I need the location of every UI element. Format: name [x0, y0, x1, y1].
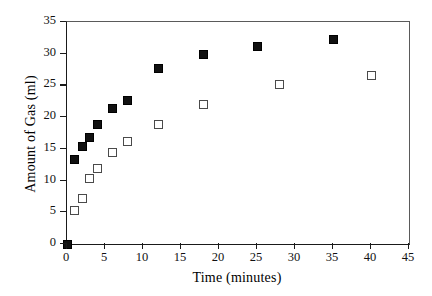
y-tick [60, 211, 66, 212]
x-tick [180, 243, 181, 249]
data-point-filled-squares [253, 42, 262, 51]
x-tick-label: 10 [127, 251, 157, 264]
data-point-filled-squares [93, 120, 102, 129]
data-point-open-squares [367, 71, 376, 80]
plot-area [66, 21, 410, 245]
data-point-open-squares [85, 174, 94, 183]
data-point-open-squares [108, 148, 117, 157]
data-point-filled-squares [154, 64, 163, 73]
x-tick-label: 20 [203, 251, 233, 264]
data-point-open-squares [199, 100, 208, 109]
y-tick [60, 180, 66, 181]
x-tick [256, 243, 257, 249]
x-tick [66, 243, 67, 249]
y-axis-title: Amount of Gas (ml) [23, 14, 39, 254]
data-point-filled-squares [123, 96, 132, 105]
gas-evolution-scatter-chart: 051015202530354045 05101520253035 Time (… [0, 0, 432, 296]
y-tick [60, 148, 66, 149]
data-point-filled-squares [70, 155, 79, 164]
x-tick [332, 243, 333, 249]
x-tick-label: 45 [393, 251, 423, 264]
x-tick-label: 15 [165, 251, 195, 264]
data-point-open-squares [93, 164, 102, 173]
data-point-open-squares [275, 80, 284, 89]
x-tick-label: 0 [51, 251, 81, 264]
data-point-open-squares [154, 120, 163, 129]
x-tick-label: 30 [279, 251, 309, 264]
x-axis-title: Time (minutes) [66, 270, 408, 286]
x-tick [142, 243, 143, 249]
data-point-filled-squares [85, 133, 94, 142]
x-tick [104, 243, 105, 249]
data-point-filled-squares [199, 50, 208, 59]
y-tick [60, 243, 66, 244]
x-tick [370, 243, 371, 249]
data-point-open-squares [70, 206, 79, 215]
data-point-filled-squares [108, 104, 117, 113]
data-point-filled-squares [78, 142, 87, 151]
data-point-open-squares [78, 194, 87, 203]
x-tick [294, 243, 295, 249]
x-tick-label: 25 [241, 251, 271, 264]
x-tick-label: 40 [355, 251, 385, 264]
x-tick [218, 243, 219, 249]
data-point-filled-squares [329, 35, 338, 44]
y-tick [60, 53, 66, 54]
y-tick [60, 21, 66, 22]
x-tick [408, 243, 409, 249]
x-tick-label: 35 [317, 251, 347, 264]
y-tick [60, 84, 66, 85]
y-tick [60, 116, 66, 117]
data-point-open-squares [123, 137, 132, 146]
x-tick-label: 5 [89, 251, 119, 264]
